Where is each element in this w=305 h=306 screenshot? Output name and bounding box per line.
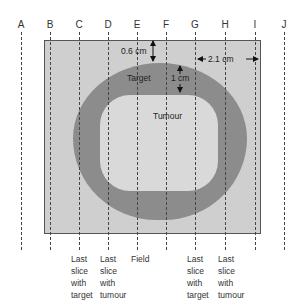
measurement-arrows <box>0 0 305 306</box>
bottom-label-g: Last slice with target <box>187 253 209 301</box>
tumour-label: Tumour <box>153 111 182 121</box>
field-margin-label: 2.1 cm <box>208 54 234 64</box>
target-thickness-label: 1 cm <box>171 73 189 83</box>
bottom-label-c: Last slice with target <box>71 253 93 301</box>
bottom-label-e: Field <box>131 253 149 265</box>
target-label: Target <box>127 73 151 83</box>
bottom-label-d: Last slice with tumour <box>100 253 126 301</box>
margin-top-label: 0.6 cm <box>121 46 147 56</box>
bottom-label-h: Last slice with tumour <box>218 253 244 301</box>
